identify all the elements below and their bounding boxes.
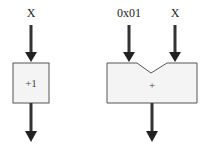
left-input-label: X — [27, 6, 36, 20]
left-input-arrowhead-icon — [25, 52, 37, 62]
adder-input-label-1: 0x01 — [117, 6, 141, 20]
left-output-arrowhead-icon — [25, 131, 37, 142]
adder-input-arrowhead-2-icon — [169, 52, 181, 62]
adder-block: 0x01 X + — [107, 6, 197, 142]
increment-operation: +1 — [25, 77, 37, 89]
adder-operation: + — [149, 79, 155, 91]
adder-input-arrowhead-1-icon — [123, 52, 135, 62]
adder-output-arrowhead-icon — [146, 131, 158, 142]
increment-block: X +1 — [13, 6, 49, 142]
diagram-canvas: X +1 0x01 X + — [0, 0, 208, 149]
adder-input-label-2: X — [171, 6, 180, 20]
